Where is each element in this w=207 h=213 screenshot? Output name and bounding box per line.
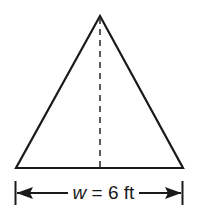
width-value: 6 ft (108, 182, 134, 203)
triangle (16, 16, 183, 168)
width-variable: w (73, 182, 87, 203)
equals-sign: = (92, 182, 103, 203)
width-label: w = 6 ft (0, 181, 207, 205)
